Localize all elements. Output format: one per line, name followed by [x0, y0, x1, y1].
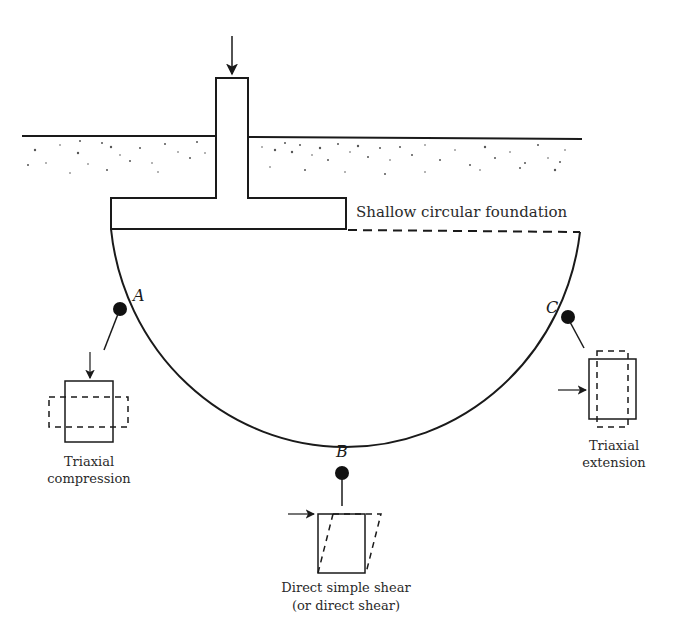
point-c-label: C [546, 298, 558, 317]
direct-simple-shear-label-2: (or direct shear) [292, 598, 400, 613]
foundation-label: Shallow circular foundation [356, 203, 568, 221]
triaxial-compression-specimen [65, 381, 113, 442]
point-a-label: A [131, 286, 145, 305]
foundation-failure-diagram: Shallow circular foundation A Triaxial c… [0, 0, 675, 639]
direct-simple-shear-deformed [318, 514, 381, 573]
foundation-dashed-extension [348, 230, 580, 232]
point-b: B Direct simple shear (or direct shear) [281, 442, 411, 613]
point-b-label: B [335, 442, 348, 461]
triaxial-extension-label-2: extension [582, 455, 646, 470]
failure-surface-arc [111, 229, 580, 447]
direct-simple-shear-label-1: Direct simple shear [281, 580, 411, 595]
triaxial-extension-deformed [597, 351, 628, 427]
triaxial-extension-label-1: Triaxial [589, 438, 639, 453]
triaxial-compression-deformed [49, 397, 128, 427]
soil-stipple [27, 140, 566, 175]
triaxial-extension-specimen [589, 359, 636, 419]
foundation-outline [111, 78, 346, 229]
ground-surface [22, 136, 582, 139]
triaxial-compression-label-1: Triaxial [64, 454, 114, 469]
direct-simple-shear-specimen [318, 514, 365, 573]
triaxial-compression-label-2: compression [47, 471, 131, 486]
point-a: A Triaxial compression [47, 286, 144, 486]
point-c: C Triaxial extension [546, 298, 646, 470]
